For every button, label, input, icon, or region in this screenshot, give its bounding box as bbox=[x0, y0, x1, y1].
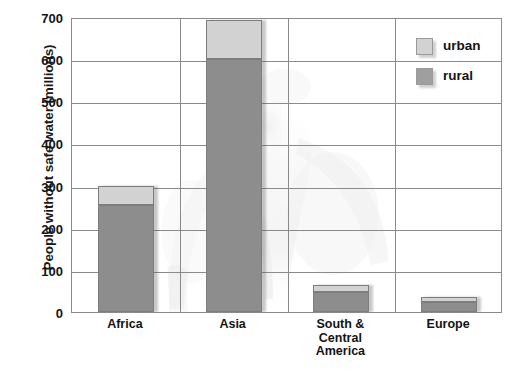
bar-segment-rural[interactable] bbox=[206, 59, 262, 312]
x-tick-label: Africa bbox=[107, 318, 142, 332]
y-tick-label: 200 bbox=[41, 221, 63, 236]
bar-group[interactable] bbox=[313, 285, 369, 312]
legend-item-urban: urban bbox=[416, 36, 511, 61]
y-tick-label: 300 bbox=[41, 179, 63, 194]
y-axis-tick-labels: 7006005004003002001000 bbox=[0, 0, 71, 379]
urban-swatch-icon bbox=[416, 38, 433, 55]
legend-label-rural: rural bbox=[443, 68, 473, 83]
y-tick-label: 700 bbox=[41, 11, 63, 26]
y-tick-label: 500 bbox=[41, 95, 63, 110]
legend: urban rural bbox=[416, 36, 511, 96]
bar-segment-rural[interactable] bbox=[313, 292, 369, 312]
rural-swatch-icon bbox=[416, 68, 433, 85]
bar-segment-urban[interactable] bbox=[421, 297, 477, 302]
x-tick-label: South & Central America bbox=[316, 318, 365, 359]
bar-segment-urban[interactable] bbox=[313, 285, 369, 292]
bar-segment-urban[interactable] bbox=[206, 20, 262, 59]
x-axis-tick-labels: AfricaAsiaSouth & Central AmericaEurope bbox=[71, 318, 502, 378]
legend-item-rural: rural bbox=[416, 66, 511, 91]
y-tick-label: 600 bbox=[41, 53, 63, 68]
legend-label-urban: urban bbox=[443, 38, 481, 53]
bar-group[interactable] bbox=[98, 186, 154, 312]
bar-segment-rural[interactable] bbox=[421, 302, 477, 312]
bar-chart: People without safe water (millions) 700… bbox=[0, 0, 517, 379]
x-tick-label: Asia bbox=[219, 318, 245, 332]
bar-group[interactable] bbox=[206, 20, 262, 312]
bar-segment-rural[interactable] bbox=[98, 205, 154, 312]
y-tick-label: 100 bbox=[41, 263, 63, 278]
x-tick-label: Europe bbox=[427, 318, 470, 332]
y-tick-label: 0 bbox=[56, 306, 63, 321]
bar-group[interactable] bbox=[421, 297, 477, 312]
y-tick-label: 400 bbox=[41, 137, 63, 152]
bar-segment-urban[interactable] bbox=[98, 186, 154, 205]
